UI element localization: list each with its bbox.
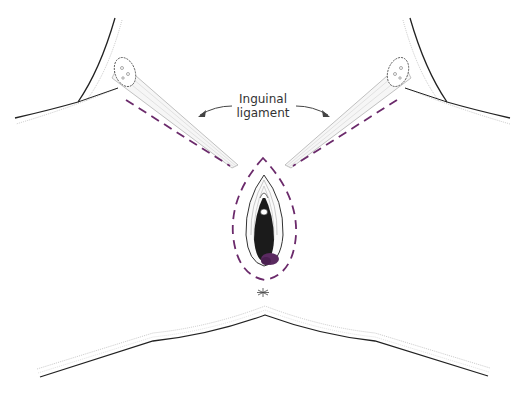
right-inguinal-ligament (285, 54, 413, 168)
right-incision-line (293, 100, 397, 166)
right-thigh-contour (403, 18, 510, 124)
inguinal-ligament-label: Inguinal ligament (228, 92, 298, 120)
anus (257, 288, 269, 297)
vulva (246, 175, 283, 266)
left-incision-line (126, 100, 230, 166)
label-line-2: ligament (228, 106, 298, 120)
lesion (261, 253, 279, 265)
illustration (0, 0, 523, 393)
left-arrowhead-icon (198, 110, 206, 117)
label-line-1: Inguinal (228, 92, 298, 106)
buttock-contour (37, 306, 490, 377)
right-arrowhead-icon (322, 110, 330, 117)
left-inguinal-ligament (110, 54, 238, 168)
left-thigh-contour (15, 18, 122, 124)
